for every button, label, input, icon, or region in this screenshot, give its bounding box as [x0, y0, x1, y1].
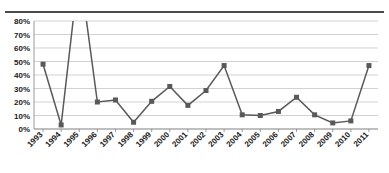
x-axis-tick-label: 1997	[98, 130, 117, 149]
data-point-marker	[131, 120, 136, 125]
data-point-marker	[222, 63, 227, 68]
data-point-marker	[95, 100, 100, 105]
data-series-group	[43, 14, 369, 125]
y-axis-tick-label: 20%	[14, 98, 30, 107]
x-axis-tick-label: 2004	[225, 130, 244, 149]
x-axis-tick-label: 1996	[80, 130, 99, 149]
x-axis-tick-label: 2000	[152, 130, 171, 149]
data-point-marker	[240, 112, 245, 117]
y-axis-tick-label: 40%	[14, 71, 30, 80]
chart-figure: 0%10%20%30%40%50%60%70%80% 1993199419951…	[0, 0, 389, 173]
data-point-marker	[204, 88, 209, 93]
data-point-marker	[330, 120, 335, 125]
y-axis-tick-label: 50%	[14, 58, 30, 67]
data-point-marker	[185, 103, 190, 108]
data-point-marker	[294, 95, 299, 100]
x-axis-tick-label: 1999	[134, 130, 153, 149]
x-axis-tick-labels: 1993199419951996199719981999200020012002…	[26, 130, 371, 149]
header-divider	[5, 11, 384, 13]
data-point-marker	[59, 122, 64, 127]
data-point-marker	[258, 113, 263, 118]
x-axis-tick-label: 2002	[188, 130, 207, 149]
y-axis-tick-label: 0%	[18, 125, 30, 134]
x-axis-tick-label: 2011	[352, 130, 371, 149]
data-point-marker	[348, 118, 353, 123]
line-chart-plot: 0%10%20%30%40%50%60%70%80% 1993199419951…	[0, 14, 389, 173]
x-axis-tick-label: 2009	[315, 130, 334, 149]
data-point-marker	[167, 84, 172, 89]
x-axis-tick-label: 2010	[333, 130, 352, 149]
x-axis-tick-label: 2005	[243, 130, 262, 149]
data-point-marker	[41, 62, 46, 67]
data-point-marker	[149, 99, 154, 104]
x-axis-tick-label: 2001	[170, 130, 189, 149]
y-axis-tick-label: 60%	[14, 44, 30, 53]
data-point-marker	[276, 109, 281, 114]
x-axis-tick-label: 2008	[297, 130, 316, 149]
y-axis-tick-label: 30%	[14, 85, 30, 94]
data-point-marker	[113, 97, 118, 102]
x-axis-tick-label: 2003	[207, 130, 226, 149]
data-point-marker	[312, 112, 317, 117]
y-axis-tick-label: 70%	[14, 31, 30, 40]
y-axis-tick-labels: 0%10%20%30%40%50%60%70%80%	[14, 17, 30, 134]
x-axis-tick-label: 2007	[279, 130, 298, 149]
y-axis-tick-label: 80%	[14, 17, 30, 26]
x-axis-tick-label: 1994	[44, 130, 63, 149]
series-line	[43, 14, 369, 125]
gridlines-group	[34, 21, 378, 129]
chart-title	[0, 0, 389, 4]
x-axis-tick-label: 2006	[261, 130, 280, 149]
x-axis-tick-label: 1995	[62, 130, 81, 149]
y-axis-tick-label: 10%	[14, 112, 30, 121]
x-axis-tick-label: 1998	[116, 130, 135, 149]
data-point-marker	[366, 63, 371, 68]
